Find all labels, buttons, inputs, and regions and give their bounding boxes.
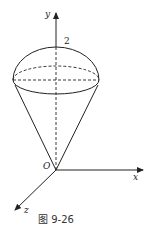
figure-caption: 图 9-26 [0,211,112,226]
cone-left-side [15,85,56,170]
diagram-canvas [0,0,153,244]
y-axis-label: y [45,9,50,19]
origin-label: O [43,161,50,171]
cone-right-side [56,85,98,170]
height-mark-label: 2 [64,36,70,46]
x-axis-label: x [133,172,138,182]
z-axis [15,170,56,210]
